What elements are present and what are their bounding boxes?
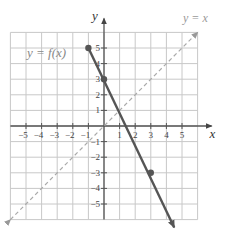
x-tick-label: −5 [18, 130, 28, 140]
y-tick-label: −3 [90, 168, 100, 178]
y-tick-label: 5 [96, 43, 101, 53]
x-tick-label: 2 [133, 130, 138, 140]
data-point [85, 45, 91, 51]
y-tick-label: −4 [90, 183, 100, 193]
y-tick-label: −5 [90, 199, 100, 209]
x-tick-label: 1 [117, 130, 122, 140]
function-label: y = f(x) [25, 45, 66, 60]
identity-label: y = x [182, 11, 208, 25]
x-tick-label: −4 [34, 130, 44, 140]
data-point [101, 76, 107, 82]
x-tick-label: −2 [65, 130, 75, 140]
x-tick-label: 3 [149, 130, 154, 140]
x-tick-label: −3 [49, 130, 59, 140]
function-line [88, 48, 174, 227]
y-tick-label: −2 [90, 152, 100, 162]
y-tick-label: 3 [96, 74, 101, 84]
annotations: xyy = f(x)y = x [25, 8, 216, 141]
y-axis-label: y [90, 8, 98, 23]
x-tick-label: 4 [164, 130, 169, 140]
data-point [148, 170, 154, 176]
x-axis-label: x [209, 126, 216, 141]
y-tick-label: 1 [96, 105, 101, 115]
coordinate-plane: −5−4−3−2−11234554321−1−2−3−4−5 xyy = f(x… [0, 0, 228, 231]
x-tick-label: 5 [180, 130, 185, 140]
y-tick-label: 2 [96, 90, 101, 100]
x-tick-label: −1 [81, 130, 91, 140]
